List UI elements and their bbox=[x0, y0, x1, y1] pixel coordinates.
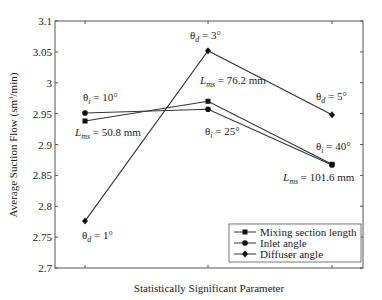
x-axis-label: Statistically Significant Parameter bbox=[134, 282, 285, 294]
y-tick-label: 3.05 bbox=[33, 46, 53, 58]
y-axis-label: Average Suction Flow (sm3/min) bbox=[7, 72, 20, 217]
y-tick-label: 2.75 bbox=[33, 231, 53, 243]
y-tick-label: 2.85 bbox=[33, 169, 53, 181]
y-tick-label: 2.95 bbox=[33, 108, 53, 120]
circle-marker bbox=[82, 110, 88, 116]
legend-label: Diffuser angle bbox=[260, 248, 323, 260]
line-chart: 3.13.0532.952.92.852.82.752.7 θi = 10°Lm… bbox=[0, 0, 382, 300]
y-tick-label: 3.1 bbox=[38, 15, 52, 27]
legend: Mixing section lengthInlet angleDiffuser… bbox=[229, 224, 361, 262]
y-tick-label: 2.8 bbox=[38, 200, 52, 212]
legend-circle-icon bbox=[242, 240, 248, 246]
square-marker bbox=[83, 119, 88, 124]
circle-marker bbox=[329, 162, 335, 168]
legend-square-icon bbox=[243, 230, 248, 235]
y-tick-label: 3 bbox=[47, 77, 53, 89]
square-marker bbox=[206, 99, 211, 104]
circle-marker bbox=[205, 107, 211, 113]
y-tick-label: 2.9 bbox=[38, 139, 52, 151]
y-tick-label: 2.7 bbox=[38, 262, 52, 274]
